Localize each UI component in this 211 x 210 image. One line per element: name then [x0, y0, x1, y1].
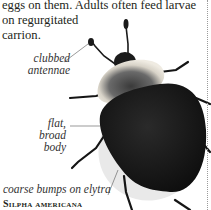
- label-coarse-bumps: coarse bumps on elytra: [3, 183, 117, 195]
- antenna-club: [88, 38, 94, 46]
- label-line: flat, broad: [20, 117, 66, 141]
- label-line: antennae: [24, 64, 70, 76]
- species-caption: Silpha americana: [3, 198, 82, 209]
- label-line: clubbed: [24, 52, 70, 64]
- antenna-club: [124, 19, 129, 29]
- label-flat-broad-body: flat, broad body: [20, 117, 66, 153]
- label-line: body: [20, 141, 66, 153]
- label-clubbed-antennae: clubbed antennae: [24, 52, 70, 76]
- beetle-illustration: [0, 0, 211, 210]
- page-border-dotted: [207, 0, 208, 210]
- book-page: eggs on them. Adults often feed larvae o…: [0, 0, 211, 210]
